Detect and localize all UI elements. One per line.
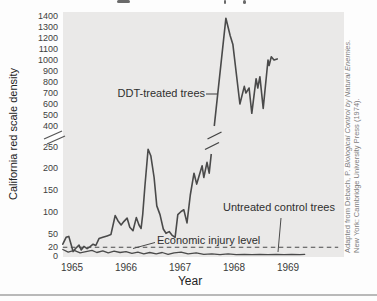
x-tick-label: 1968 bbox=[212, 262, 256, 273]
line-break-gap bbox=[211, 126, 214, 154]
y-tick-label: 20 bbox=[18, 242, 58, 253]
untreated-series-label: Untreated control trees bbox=[223, 201, 335, 213]
y-tick-label: 1200 bbox=[18, 33, 58, 44]
y-tick-label: 1100 bbox=[18, 44, 58, 55]
x-tick-label: 1967 bbox=[158, 262, 202, 273]
y-tick-label: 900 bbox=[18, 66, 58, 77]
y-tick-label: 1400 bbox=[18, 11, 58, 22]
x-tick-label: 1966 bbox=[104, 262, 148, 273]
y-tick-label: 700 bbox=[18, 88, 58, 99]
x-tick-label: 1965 bbox=[50, 262, 94, 273]
y-tick-label: 600 bbox=[18, 99, 58, 110]
figure-red-scale-density-chart: California red scale density Year DDT-tr… bbox=[0, 0, 377, 301]
y-tick-label: 1000 bbox=[18, 55, 58, 66]
y-tick-label: 400 bbox=[18, 121, 58, 132]
source-citation: Adapted from Debach, P. Biological Contr… bbox=[343, 17, 361, 253]
y-tick-label: 150 bbox=[18, 185, 58, 196]
citation-line-2: New York: Cambridge University Press (19… bbox=[352, 17, 361, 253]
citation-line-1: Adapted from Debach, P. Biological Contr… bbox=[343, 17, 352, 253]
y-tick-label: 200 bbox=[18, 163, 58, 174]
y-tick-label: 1300 bbox=[18, 22, 58, 33]
ddt-series-label: DDT-treated trees bbox=[95, 87, 205, 99]
plot-area bbox=[63, 12, 344, 257]
economic-injury-label: Economic injury level bbox=[157, 234, 260, 246]
y-tick-label: 500 bbox=[18, 110, 58, 121]
x-axis-title: Year bbox=[170, 274, 210, 288]
y-tick-label: 50 bbox=[18, 229, 58, 240]
y-tick-label: 250 bbox=[18, 142, 58, 153]
y-tick-label: 100 bbox=[18, 207, 58, 218]
x-tick-label: 1969 bbox=[266, 262, 310, 273]
y-tick-label: 800 bbox=[18, 77, 58, 88]
axis-break-icon bbox=[44, 131, 62, 139]
bottom-divider-line bbox=[0, 294, 377, 296]
